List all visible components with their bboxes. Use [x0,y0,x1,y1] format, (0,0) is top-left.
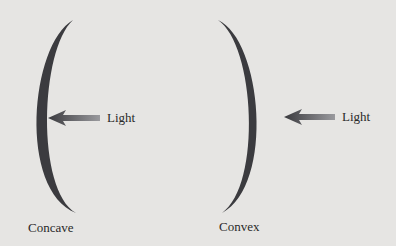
concave-label: Concave [28,220,73,236]
diagram-canvas [0,0,396,246]
light-arrow-icon [284,109,335,125]
light-label-convex: Light [342,109,370,125]
light-arrow-icon [48,110,100,126]
light-label-concave: Light [107,110,135,126]
convex-label: Convex [219,219,259,235]
convex-mirror [218,20,257,213]
